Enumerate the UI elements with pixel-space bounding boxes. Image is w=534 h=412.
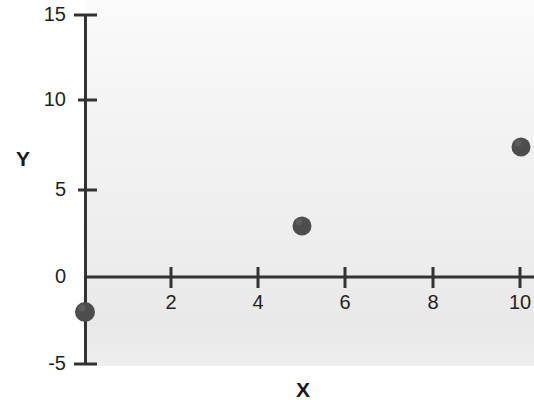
y-tick-label-minus5: -5 xyxy=(6,352,66,375)
data-point xyxy=(75,302,95,322)
data-point xyxy=(512,138,531,157)
data-point-highlight xyxy=(296,219,303,226)
x-tick-label-10: 10 xyxy=(490,291,534,314)
scatter-plot-figure: 15 10 5 0 -5 2 4 6 8 10 Y X xyxy=(0,0,534,412)
x-axis-title: X xyxy=(296,378,311,402)
x-tick-label-4: 4 xyxy=(228,291,288,314)
y-tick-label-10: 10 xyxy=(6,88,66,111)
x-tick-label-8: 8 xyxy=(403,291,463,314)
x-tick-label-2: 2 xyxy=(141,291,201,314)
data-point-highlight xyxy=(78,304,85,311)
y-tick-label-15: 15 xyxy=(6,3,66,26)
data-point-highlight xyxy=(515,140,522,147)
y-axis-title: Y xyxy=(16,147,31,171)
plot-canvas xyxy=(0,0,534,412)
x-tick-label-6: 6 xyxy=(315,291,375,314)
data-point xyxy=(293,217,312,236)
y-tick-label-5: 5 xyxy=(6,178,66,201)
y-tick-label-0: 0 xyxy=(6,265,66,288)
